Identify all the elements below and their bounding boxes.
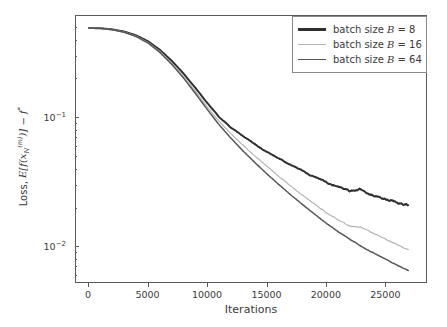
- y-minor-tick-mark: [75, 130, 77, 131]
- legend-item-b16[interactable]: batch size B = 16: [298, 37, 420, 52]
- x-tick-label: 15000: [251, 289, 281, 300]
- y-minor-tick-mark: [75, 123, 77, 124]
- y-tick-label: 10−2: [0, 240, 72, 252]
- y-tick-mark: [75, 246, 79, 247]
- y-minor-tick-mark: [75, 208, 77, 209]
- y-axis-label-minus: −: [18, 114, 29, 129]
- legend-line-icon-b64: [298, 55, 326, 65]
- x-tick-label: 25000: [370, 289, 400, 300]
- y-minor-tick-mark: [75, 78, 77, 79]
- x-tick-mark: [207, 283, 208, 287]
- y-axis-label-expression: E[f(xN(m))]: [18, 129, 29, 178]
- x-tick-mark: [326, 283, 327, 287]
- y-minor-tick-mark: [75, 156, 77, 157]
- x-tick-label: 20000: [311, 289, 341, 300]
- legend-label-b16: batch size B = 16: [333, 39, 422, 50]
- x-tick-label: 10000: [192, 289, 222, 300]
- legend-label-b8: batch size B = 8: [333, 24, 415, 35]
- y-tick-mark: [75, 117, 79, 118]
- y-minor-tick-mark: [75, 185, 77, 186]
- legend-box: batch size B = 8 batch size B = 16 batch…: [292, 16, 427, 73]
- y-minor-tick-mark: [75, 275, 77, 276]
- x-axis-label: Iterations: [75, 303, 427, 316]
- y-minor-tick-mark: [75, 252, 77, 253]
- x-tick-label: 5000: [135, 289, 159, 300]
- y-minor-tick-mark: [75, 27, 77, 28]
- x-tick-mark: [385, 283, 386, 287]
- legend-label-b64: batch size B = 64: [333, 54, 422, 65]
- y-minor-tick-mark: [75, 137, 77, 138]
- x-tick-mark: [267, 283, 268, 287]
- legend-line-icon-b8: [298, 25, 326, 35]
- y-axis-label: Loss, E[f(xN(m))] − f*: [16, 57, 31, 257]
- y-axis-label-optimum: f*: [18, 107, 29, 114]
- x-tick-label: 0: [85, 289, 91, 300]
- x-tick-mark: [148, 283, 149, 287]
- y-minor-tick-mark: [75, 40, 77, 41]
- y-tick-label: 10−1: [0, 111, 72, 123]
- legend-item-b64[interactable]: batch size B = 64: [298, 52, 420, 67]
- x-tick-mark: [88, 283, 89, 287]
- y-minor-tick-mark: [75, 56, 77, 57]
- figure-canvas: 10−1 10−2 0500010000150002000025000 Iter…: [0, 0, 447, 327]
- legend-line-icon-b16: [298, 40, 326, 50]
- y-minor-tick-mark: [75, 169, 77, 170]
- y-minor-tick-mark: [75, 266, 77, 267]
- legend-item-b8[interactable]: batch size B = 8: [298, 22, 420, 37]
- y-minor-tick-mark: [75, 259, 77, 260]
- y-axis-label-prefix: Loss,: [18, 178, 29, 206]
- y-minor-tick-mark: [75, 146, 77, 147]
